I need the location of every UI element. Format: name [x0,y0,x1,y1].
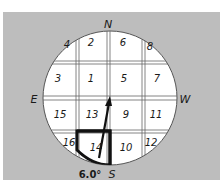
cell-label-16: 16 [63,137,76,148]
cell-label-6: 6 [120,37,126,48]
cell-label-9: 9 [123,109,129,120]
cell-label-2: 2 [88,37,94,48]
cell-label-4: 4 [64,39,70,50]
cell-label-7: 7 [154,73,161,84]
angle-label: 6.0° [79,169,102,180]
cell-label-11: 11 [150,109,163,120]
cell-label-10: 10 [120,142,133,153]
label-west: W [180,93,192,106]
label-south: S [109,168,116,181]
cell-label-8: 8 [147,41,153,52]
cell-label-14: 14 [90,142,103,153]
cell-label-15: 15 [54,109,67,120]
label-north: N [104,18,112,31]
cell-label-12: 12 [145,137,158,148]
label-east: E [31,93,38,106]
stereonet-diagram: 42683157151391116141012 N S E W 6.0° [0,0,223,183]
cell-label-13: 13 [86,109,99,120]
cell-label-5: 5 [121,73,127,84]
cell-label-1: 1 [88,73,94,84]
cell-label-3: 3 [55,73,61,84]
